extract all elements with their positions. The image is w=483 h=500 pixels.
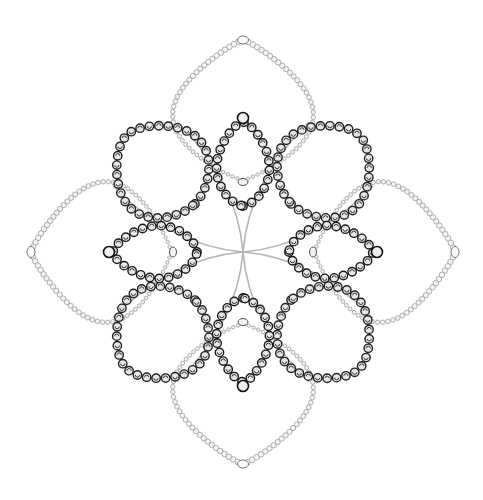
scroll bbox=[117, 189, 125, 197]
scroll bbox=[123, 296, 131, 304]
bead bbox=[287, 154, 291, 158]
scroll bbox=[114, 151, 122, 159]
bead bbox=[221, 170, 224, 173]
scroll bbox=[316, 122, 324, 130]
scroll bbox=[164, 122, 172, 130]
scroll bbox=[255, 192, 263, 200]
scroll bbox=[241, 294, 249, 302]
scroll bbox=[363, 145, 371, 153]
lobe-tip-ring bbox=[104, 247, 115, 258]
bead bbox=[184, 357, 188, 361]
bead bbox=[91, 182, 96, 187]
bead bbox=[344, 303, 348, 307]
scroll bbox=[357, 362, 365, 370]
scroll bbox=[326, 122, 334, 130]
scroll bbox=[228, 197, 236, 205]
bead bbox=[147, 292, 151, 296]
scroll bbox=[118, 304, 126, 312]
bead bbox=[106, 180, 110, 184]
scroll bbox=[116, 142, 124, 150]
scroll bbox=[306, 285, 314, 293]
bead bbox=[305, 366, 309, 370]
scroll bbox=[302, 269, 310, 277]
bead bbox=[184, 142, 188, 146]
scroll bbox=[277, 312, 285, 320]
scroll bbox=[224, 365, 232, 373]
lobe-oval bbox=[310, 247, 317, 257]
bead bbox=[381, 180, 385, 184]
scroll bbox=[138, 224, 146, 232]
scroll bbox=[365, 173, 373, 181]
bead bbox=[86, 184, 91, 189]
scroll bbox=[355, 200, 363, 208]
scroll bbox=[364, 344, 372, 352]
scroll bbox=[323, 374, 331, 382]
scroll bbox=[127, 128, 135, 136]
bead bbox=[200, 343, 204, 347]
scroll bbox=[361, 307, 369, 315]
scroll bbox=[171, 373, 179, 381]
scroll bbox=[353, 129, 361, 137]
scroll bbox=[259, 139, 267, 147]
scroll bbox=[133, 371, 141, 379]
scroll bbox=[181, 207, 189, 215]
lobe-oval bbox=[238, 179, 248, 186]
scroll bbox=[359, 136, 367, 144]
scroll bbox=[365, 335, 373, 343]
tip-bead bbox=[27, 247, 35, 258]
bead bbox=[134, 193, 138, 197]
bead bbox=[141, 300, 145, 304]
scroll bbox=[277, 144, 285, 152]
bead bbox=[171, 395, 176, 400]
bead bbox=[180, 138, 184, 142]
scroll bbox=[231, 122, 239, 130]
bead bbox=[348, 307, 352, 311]
bead bbox=[338, 204, 342, 208]
scroll bbox=[256, 305, 264, 313]
scroll bbox=[225, 129, 233, 137]
scroll bbox=[289, 294, 297, 302]
scroll bbox=[173, 124, 181, 132]
bead bbox=[311, 390, 315, 394]
bead bbox=[308, 400, 313, 405]
bead bbox=[396, 184, 401, 189]
bead bbox=[311, 110, 315, 114]
scroll bbox=[304, 372, 312, 380]
scroll bbox=[161, 374, 169, 382]
scroll bbox=[282, 136, 290, 144]
bead bbox=[162, 231, 165, 234]
scroll bbox=[202, 147, 210, 155]
scroll bbox=[219, 357, 227, 365]
bead bbox=[309, 100, 314, 105]
scroll bbox=[358, 234, 366, 242]
scroll bbox=[298, 126, 306, 134]
scroll bbox=[192, 298, 200, 306]
scroll bbox=[303, 210, 311, 218]
bead bbox=[199, 156, 203, 160]
bead bbox=[161, 270, 164, 273]
scroll bbox=[218, 311, 226, 319]
scroll bbox=[350, 291, 358, 299]
scroll bbox=[192, 250, 200, 258]
bead bbox=[177, 409, 182, 414]
scroll bbox=[262, 350, 270, 358]
bead bbox=[352, 310, 356, 314]
bead bbox=[386, 319, 391, 324]
scroll bbox=[120, 261, 128, 269]
bead bbox=[171, 390, 175, 394]
bead bbox=[129, 311, 133, 315]
bead bbox=[126, 187, 130, 191]
scroll bbox=[196, 359, 204, 367]
scroll bbox=[273, 340, 281, 348]
scroll bbox=[260, 184, 268, 192]
bead bbox=[261, 171, 264, 174]
scroll bbox=[136, 124, 144, 132]
scroll bbox=[357, 298, 365, 306]
bead bbox=[177, 134, 181, 138]
bead bbox=[335, 208, 339, 212]
bead bbox=[252, 326, 255, 329]
scroll bbox=[204, 343, 212, 351]
scroll bbox=[173, 270, 181, 278]
scroll bbox=[351, 368, 359, 376]
scroll bbox=[120, 134, 128, 142]
